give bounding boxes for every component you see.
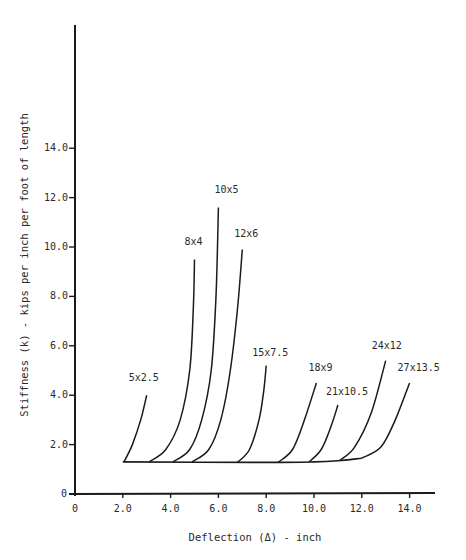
y-tick-label: 0 xyxy=(61,488,67,499)
curve-label: 21x10.5 xyxy=(326,386,368,397)
stiffness-deflection-chart: 02.04.06.08.010.012.014.002.04.06.08.010… xyxy=(0,0,466,560)
curve-label: 18x9 xyxy=(308,362,332,373)
y-tick-label: 14.0 xyxy=(44,142,68,153)
x-tick-label: 14.0 xyxy=(398,503,422,514)
curve-label: 5x2.5 xyxy=(129,372,159,383)
curve-15x7.5 xyxy=(238,366,267,463)
curve-21x10.5 xyxy=(309,405,338,462)
x-tick-label: 6.0 xyxy=(209,503,227,514)
curve-8x4 xyxy=(149,259,194,462)
curve-24x12 xyxy=(340,361,385,460)
curve-labels: 5x2.58x410x512x615x7.518x921x10.524x1227… xyxy=(129,184,440,397)
x-tick-label: 12.0 xyxy=(350,503,374,514)
x-tick-label: 2.0 xyxy=(114,503,132,514)
x-tick-label: 8.0 xyxy=(257,503,275,514)
curve-label: 12x6 xyxy=(234,228,258,239)
curve-label: 15x7.5 xyxy=(252,347,288,358)
y-tick-label: 4.0 xyxy=(50,389,68,400)
axes xyxy=(69,25,435,496)
curve-5x2.5 xyxy=(124,395,147,462)
x-axis-line xyxy=(69,493,435,494)
y-tick-label: 6.0 xyxy=(50,340,68,351)
y-tick-label: 8.0 xyxy=(50,290,68,301)
x-tick-label: 0 xyxy=(72,503,78,514)
curve-label: 27x13.5 xyxy=(398,362,440,373)
x-tick-label: 10.0 xyxy=(302,503,326,514)
curve-18x9 xyxy=(278,383,316,463)
y-tick-label: 2.0 xyxy=(50,439,68,450)
axis-ticks: 02.04.06.08.010.012.014.002.04.06.08.010… xyxy=(44,142,422,514)
curve-label: 10x5 xyxy=(214,184,238,195)
curve-label: 24x12 xyxy=(372,340,402,351)
y-axis-title: Stiffness (k) - kips per inch per foot o… xyxy=(18,113,30,416)
x-tick-label: 4.0 xyxy=(162,503,180,514)
x-axis-title: Deflection (Δ) - inch xyxy=(189,531,322,543)
curves xyxy=(123,208,410,463)
curve-label: 8x4 xyxy=(185,236,203,247)
y-tick-label: 12.0 xyxy=(44,192,68,203)
y-tick-label: 10.0 xyxy=(44,241,68,252)
